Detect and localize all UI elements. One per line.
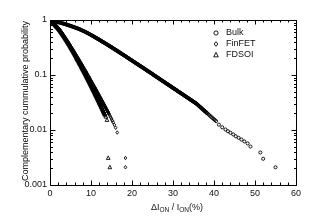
x-tick-label-60: 60 xyxy=(256,189,317,198)
legend-label-fdsoi: FDSOI xyxy=(226,50,254,59)
x-axis-title-sub-on-2: ON xyxy=(179,206,189,213)
legend-label-bulk: Bulk xyxy=(226,28,244,37)
x-axis-title-sub-on-1: ON xyxy=(159,206,169,213)
x-axis-title-slash: / xyxy=(169,202,177,212)
x-axis-title-percent: (%) xyxy=(189,202,203,212)
y-axis-title-wrapper: Complementary cummulative probability xyxy=(14,16,32,186)
legend-label-finfet: FinFET xyxy=(226,39,256,48)
x-axis-title: ΔION / ION(%) xyxy=(137,203,217,214)
figure-container: 1 0.1 0.01 0.001 0 10 20 30 40 50 60 ΔIO… xyxy=(0,0,317,224)
y-axis-title: Complementary cummulative probability xyxy=(20,21,30,181)
